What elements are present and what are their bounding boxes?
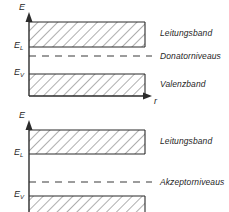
valence-band-region bbox=[29, 196, 145, 212]
p-type-plot bbox=[0, 110, 229, 212]
conduction-band-edge-label: EL bbox=[14, 41, 23, 50]
y-axis-arrow-icon bbox=[26, 120, 33, 130]
donor-level-label: Donatorniveaus bbox=[160, 52, 221, 61]
valence-band-edge-label: EV bbox=[14, 190, 24, 199]
valence-band-edge-label: EV bbox=[14, 68, 24, 77]
conduction-band-region bbox=[29, 22, 145, 47]
subscript-V: V bbox=[20, 72, 24, 78]
x-axis-arrow-icon bbox=[143, 93, 152, 100]
valence-band-label: Valenzband bbox=[160, 80, 206, 89]
conduction-band-edge-label: EL bbox=[14, 148, 23, 157]
subscript-L: L bbox=[20, 45, 23, 51]
band-diagram-n-type: E EL EV r Leitungsband Donatorniveaus Va… bbox=[0, 0, 229, 110]
conduction-band-label: Leitungsband bbox=[160, 29, 212, 38]
subscript-V: V bbox=[20, 194, 24, 200]
valence-band-region bbox=[29, 74, 145, 96]
y-axis-label: E bbox=[19, 111, 25, 120]
acceptor-level-label: Akzeptorniveaus bbox=[160, 178, 224, 187]
figure-root: E EL EV r Leitungsband Donatorniveaus Va… bbox=[0, 0, 229, 212]
band-diagram-p-type: E EL EV Leitungsband Akzeptorniveaus bbox=[0, 110, 229, 212]
conduction-band-label: Leitungsband bbox=[160, 137, 212, 146]
y-axis-label: E bbox=[19, 3, 25, 12]
subscript-L: L bbox=[20, 152, 23, 158]
conduction-band-region bbox=[29, 130, 145, 154]
y-axis-arrow-icon bbox=[26, 12, 33, 22]
x-axis-label: r bbox=[154, 97, 157, 106]
